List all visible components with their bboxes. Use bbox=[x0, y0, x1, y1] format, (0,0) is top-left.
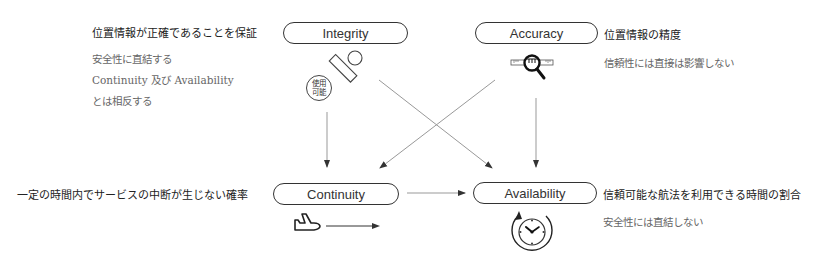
integrity-note-1: 安全性に直結する bbox=[92, 51, 172, 66]
integrity-note-3: とは相反する bbox=[92, 93, 152, 108]
availability-node[interactable]: Availability bbox=[473, 182, 597, 204]
edge-integrity-availability bbox=[379, 80, 492, 168]
badge-line-1: 使用 bbox=[312, 79, 326, 88]
integrity-node[interactable]: Integrity bbox=[283, 22, 408, 44]
accuracy-note-1: 信頼性には直接は影響しない bbox=[604, 55, 734, 70]
accuracy-node[interactable]: Accuracy bbox=[475, 22, 598, 44]
magnifier-ruler-icon bbox=[510, 50, 554, 94]
badge-line-2: 可能 bbox=[312, 88, 326, 97]
clock-cycle-icon bbox=[508, 208, 556, 258]
accuracy-description: 位置情報の精度 bbox=[604, 26, 681, 42]
availability-note-1: 安全性には直結しない bbox=[603, 214, 703, 229]
diagram-canvas: 位置情報が正確であることを保証 Integrity 安全性に直結する Conti… bbox=[0, 0, 837, 264]
continuity-node[interactable]: Continuity bbox=[273, 183, 399, 205]
integrity-note-2: Continuity 及び Availability bbox=[92, 72, 234, 87]
usable-badge: 使用 可能 bbox=[306, 75, 332, 101]
continuity-description: 一定の時間内でサービスの中断が生じない確率 bbox=[17, 186, 248, 202]
availability-description: 信頼可能な航法を利用できる時間の割合 bbox=[603, 186, 801, 202]
edge-accuracy-continuity bbox=[380, 80, 495, 168]
integrity-description: 位置情報が正確であることを保証 bbox=[92, 24, 257, 40]
airplane-icon bbox=[292, 210, 384, 236]
